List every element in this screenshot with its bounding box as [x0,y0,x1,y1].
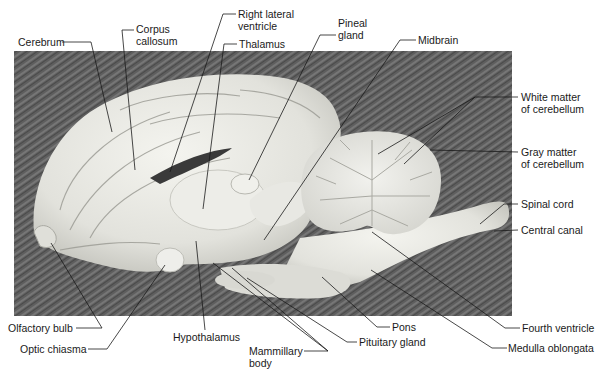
label-mammillary-body-line2: body [249,357,272,369]
pituitary-shape [215,271,275,289]
optic-chiasma-shape [156,248,184,272]
label-hypothalamus: Hypothalamus [173,331,240,343]
label-gray-matter-line1: Gray matter [521,146,576,158]
label-olfactory-bulb: Olfactory bulb [8,322,73,334]
label-pituitary-gland: Pituitary gland [359,336,426,348]
label-pineal-gland-line1: Pineal [338,17,367,29]
label-optic-chiasma: Optic chiasma [20,343,87,355]
label-white-matter-line1: White matter [521,91,581,103]
label-right-lateral-ventricle-line2: ventricle [238,20,277,32]
label-midbrain: Midbrain [418,34,458,46]
label-medulla-oblongata: Medulla oblongata [508,342,594,354]
label-right-lateral-ventricle-line1: Right lateral [238,8,294,20]
label-fourth-ventricle: Fourth ventricle [522,322,594,334]
label-spinal-cord: Spinal cord [521,198,574,210]
label-thalamus: Thalamus [239,38,285,50]
label-corpus-callosum-line2: callosum [136,35,177,47]
label-gray-matter-line2: of cerebellum [521,158,584,170]
pineal-shape [231,174,259,194]
cerebellum-shape [301,131,441,234]
label-white-matter-line2: of cerebellum [521,103,584,115]
label-central-canal: Central canal [521,224,583,236]
label-mammillary-body-line1: Mammillary [249,345,303,357]
label-pineal-gland-line2: gland [338,29,364,41]
label-cerebrum: Cerebrum [18,36,65,48]
label-corpus-callosum-line1: Corpus [136,23,170,35]
brain-diagram: Cerebrum Corpus callosum Right lateral v… [0,0,610,380]
brain-photo-illustration [0,0,610,380]
label-pons: Pons [392,321,416,333]
